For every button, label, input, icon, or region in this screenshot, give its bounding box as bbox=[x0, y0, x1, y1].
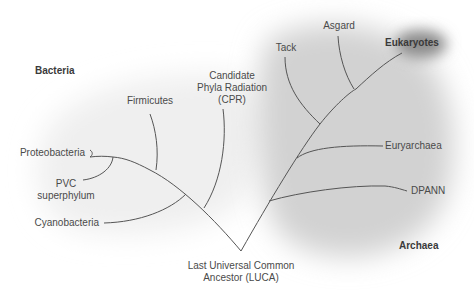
luca-label: Last Universal Common Ancestor (LUCA) bbox=[181, 260, 301, 284]
archaea-domain-label: Archaea bbox=[399, 240, 438, 252]
pvc-label: PVC superphylum bbox=[33, 178, 99, 202]
luca-label-line1: Last Universal Common bbox=[181, 260, 301, 272]
cpr-label-line1: Candidate bbox=[187, 70, 277, 82]
tree-of-life-diagram: Bacteria Archaea Eukaryotes Proteobacter… bbox=[0, 0, 474, 293]
pvc-label-line1: PVC bbox=[33, 178, 99, 190]
cpr-label-line2: Phyla Radiation bbox=[187, 82, 277, 94]
tack-label: Tack bbox=[268, 42, 304, 54]
dpann-label: DPANN bbox=[411, 185, 445, 197]
euryarchaea-label: Euryarchaea bbox=[385, 140, 442, 152]
cpr-label-line3: (CPR) bbox=[187, 94, 277, 106]
asgard-label: Asgard bbox=[318, 20, 360, 32]
eukaryotes-domain-label: Eukaryotes bbox=[385, 37, 439, 49]
proteobacteria-label: Proteobacteria bbox=[12, 147, 85, 159]
cyanobacteria-label: Cyanobacteria bbox=[20, 217, 99, 229]
luca-label-line2: Ancestor (LUCA) bbox=[181, 272, 301, 284]
pvc-label-line2: superphylum bbox=[33, 190, 99, 202]
cpr-label: Candidate Phyla Radiation (CPR) bbox=[187, 70, 277, 106]
firmicutes-label: Firmicutes bbox=[120, 95, 180, 107]
bacteria-domain-label: Bacteria bbox=[35, 65, 74, 77]
